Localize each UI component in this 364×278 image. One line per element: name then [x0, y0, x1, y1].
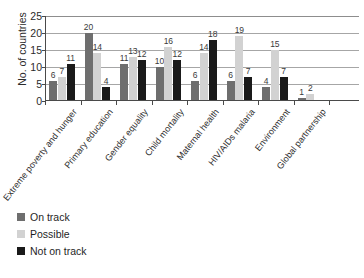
bar-slot: 10: [156, 16, 164, 101]
bar-slot: 20: [85, 16, 93, 101]
bar-slot: 15: [271, 16, 279, 101]
bar-value-label: 6: [51, 71, 56, 80]
bar-slot: 19: [235, 16, 243, 101]
y-tick-label: 15: [18, 44, 42, 56]
bar-slot: 18: [209, 16, 217, 101]
bar-group: 6197: [227, 16, 253, 101]
bar-slot: 7: [280, 16, 288, 101]
x-category-label: Environment: [253, 107, 292, 153]
y-tick-label: 5: [18, 78, 42, 90]
bar[interactable]: [93, 53, 101, 101]
bar[interactable]: [235, 36, 243, 101]
bar-slot: 7: [244, 16, 252, 101]
bar-value-label: 6: [193, 71, 198, 80]
bar-slot: 6: [191, 16, 199, 101]
bar-group: 6711: [49, 16, 75, 101]
y-tick-label: 10: [18, 61, 42, 73]
bar[interactable]: [85, 33, 93, 101]
bar[interactable]: [49, 81, 57, 101]
bar[interactable]: [262, 87, 270, 101]
bar-slot: 13: [129, 16, 137, 101]
bar[interactable]: [120, 64, 128, 101]
bar-value-label: 7: [60, 67, 65, 76]
bar-value-label: 4: [104, 77, 109, 86]
bar[interactable]: [164, 47, 172, 101]
x-axis-category-labels: Extreme poverty and hungerPrimary educat…: [45, 101, 359, 191]
plot-area: 671120144111312101612614186197415712: [45, 16, 359, 101]
y-tick-label: 25: [18, 10, 42, 22]
bar[interactable]: [58, 77, 66, 101]
bar[interactable]: [173, 60, 181, 101]
bar[interactable]: [244, 77, 252, 101]
bar-value-label: 15: [270, 40, 279, 49]
bar-chart: No. of countries 2520151050 671120144111…: [0, 0, 364, 278]
bar-slot: 1: [298, 16, 306, 101]
bar-slot: 6: [49, 16, 57, 101]
legend-label: On track: [30, 211, 70, 223]
bar-group: 4157: [262, 16, 288, 101]
bar-slot: 11: [67, 16, 75, 101]
bar-slot: 6: [227, 16, 235, 101]
bar-value-label: 6: [228, 71, 233, 80]
bar-slot: 16: [164, 16, 172, 101]
bar-value-label: 10: [155, 57, 164, 66]
bar-value-label: 11: [66, 54, 75, 63]
bar-value-label: 2: [308, 84, 313, 93]
bar-value-label: 14: [199, 43, 208, 52]
bar[interactable]: [227, 81, 235, 101]
legend-item[interactable]: On track: [17, 208, 217, 225]
chart-legend: On trackPossibleNot on track: [17, 208, 217, 259]
bar-slot: 12: [138, 16, 146, 101]
legend-label: Possible: [30, 228, 70, 240]
bar[interactable]: [200, 53, 208, 101]
bar[interactable]: [271, 50, 279, 101]
bar-value-label: 1: [299, 88, 304, 97]
bar-group: 111312: [120, 16, 146, 101]
legend-color-swatch: [17, 230, 25, 238]
bar-value-label: 14: [93, 43, 102, 52]
bar[interactable]: [138, 60, 146, 101]
y-tick-label: 20: [18, 27, 42, 39]
legend-item[interactable]: Not on track: [17, 242, 217, 259]
bar-slot: 7: [58, 16, 66, 101]
bar-slot: 4: [102, 16, 110, 101]
legend-color-swatch: [17, 213, 25, 221]
bar-group: 61418: [191, 16, 217, 101]
bar-value-label: 7: [281, 67, 286, 76]
bar-slot: 14: [200, 16, 208, 101]
legend-color-swatch: [17, 247, 25, 255]
bar-slot: [315, 16, 323, 101]
bar[interactable]: [209, 40, 217, 101]
bar-slot: 14: [93, 16, 101, 101]
bar-value-label: 4: [264, 77, 269, 86]
bar-value-label: 16: [164, 37, 173, 46]
bar-value-label: 18: [208, 30, 217, 39]
bar-value-label: 12: [172, 50, 181, 59]
bar-slot: 11: [120, 16, 128, 101]
bar-value-label: 12: [137, 50, 146, 59]
y-tick-label: 0: [18, 95, 42, 107]
legend-item[interactable]: Possible: [17, 225, 217, 242]
bar-group: 12: [298, 16, 324, 101]
bar-slot: 12: [173, 16, 181, 101]
bar-group: 101612: [156, 16, 182, 101]
legend-label: Not on track: [30, 245, 87, 257]
bar-slot: 4: [262, 16, 270, 101]
x-category-label: Extreme poverty and hunger: [1, 107, 79, 203]
bar-value-label: 19: [235, 26, 244, 35]
bar[interactable]: [129, 57, 137, 101]
bar[interactable]: [156, 67, 164, 101]
y-axis-line: [45, 16, 46, 101]
bar-value-label: 20: [84, 23, 93, 32]
bar-value-label: 7: [246, 67, 251, 76]
bar[interactable]: [191, 81, 199, 101]
bar[interactable]: [280, 77, 288, 101]
bar[interactable]: [67, 64, 75, 101]
bar[interactable]: [102, 87, 110, 101]
bar-slot: 2: [306, 16, 314, 101]
bar-group: 20144: [85, 16, 111, 101]
